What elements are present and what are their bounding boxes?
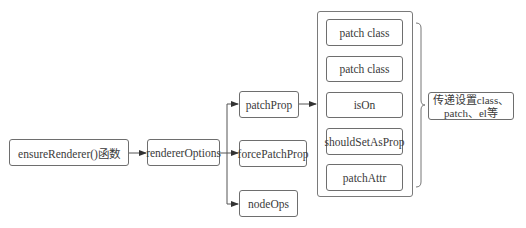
node-ops-label: nodeOps (248, 198, 289, 210)
annotation-note: 传递设置class、 patch、el等 (428, 92, 514, 120)
force-patch-prop-label: forcePatchProp (238, 148, 309, 160)
brace-icon (416, 23, 425, 187)
child-patch-class-1: patch class (326, 19, 403, 46)
child-label: patch class (339, 27, 389, 39)
note-line-2: patch、el等 (429, 107, 513, 120)
renderer-options-node: rendererOptions (147, 139, 220, 166)
child-label: patch class (339, 63, 389, 75)
child-should-set-as-prop: shouldSetAsProp (326, 128, 403, 155)
force-patch-prop-node: forcePatchProp (239, 140, 307, 167)
child-is-on: isOn (326, 92, 403, 118)
child-patch-class-2: patch class (326, 56, 403, 82)
child-patch-attr: patchAttr (326, 164, 403, 191)
renderer-options-label: rendererOptions (146, 147, 221, 159)
child-label: isOn (354, 99, 376, 111)
node-ops-node: nodeOps (239, 190, 298, 217)
patch-prop-node: patchProp (239, 91, 299, 118)
child-label: shouldSetAsProp (325, 136, 405, 148)
ensure-renderer-label: ensureRenderer()函数 (18, 145, 120, 161)
ensure-renderer-node: ensureRenderer()函数 (9, 139, 129, 166)
note-line-1: 传递设置class、 (429, 94, 513, 107)
patch-prop-label: patchProp (246, 99, 293, 111)
child-label: patchAttr (343, 172, 386, 184)
